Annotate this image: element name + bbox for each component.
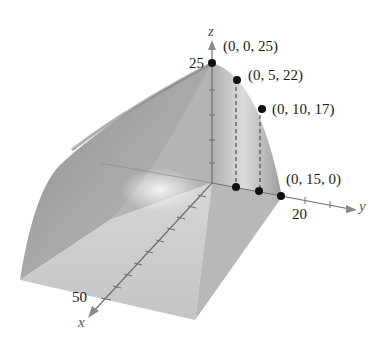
- y-tick-label: 20: [292, 207, 307, 222]
- y-axis-label: y: [359, 199, 366, 214]
- point-0-5-22: [233, 76, 241, 84]
- z-axis-arrow-icon: [208, 40, 216, 50]
- specular-highlight: [120, 168, 200, 212]
- x-axis-label: x: [78, 315, 85, 330]
- figure: z 25 (0, 0, 25) (0, 5, 22) (0, 10, 17) (…: [0, 0, 391, 349]
- surface-cross-section: [212, 63, 282, 197]
- point-0-0-25: [208, 59, 216, 67]
- point-0-15-0: [277, 192, 285, 200]
- point-0-5-0: [232, 183, 240, 191]
- x-tick-label: 50: [72, 290, 87, 305]
- y-axis-arrow-icon: [346, 205, 357, 213]
- z-tick-label: 25: [189, 56, 204, 71]
- point-label-0: (0, 0, 25): [223, 39, 278, 54]
- point-label-3: (0, 15, 0): [286, 172, 341, 187]
- point-0-10-0: [255, 187, 263, 195]
- point-label-2: (0, 10, 17): [272, 102, 335, 117]
- point-label-1: (0, 5, 22): [248, 68, 303, 83]
- point-0-10-17: [258, 105, 266, 113]
- z-axis-label: z: [208, 24, 214, 39]
